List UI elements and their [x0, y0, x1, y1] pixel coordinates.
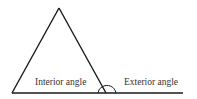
interior-angle-arc — [98, 87, 103, 94]
exterior-angle-label: Exterior angle — [124, 77, 178, 87]
triangle-angle-diagram: Interior angle Exterior angle — [0, 0, 197, 99]
interior-angle-label: Interior angle — [35, 77, 86, 87]
